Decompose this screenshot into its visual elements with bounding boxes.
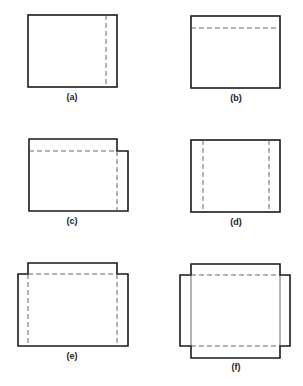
figure-d-outline	[191, 140, 280, 212]
figure-f-outline	[180, 264, 290, 358]
figure-d	[191, 140, 280, 212]
figure-a-outline	[28, 15, 117, 87]
figure-a-label: (a)	[67, 92, 78, 102]
figure-c-label: (c)	[67, 216, 78, 226]
figure-e-label: (e)	[67, 351, 78, 361]
figure-f	[180, 264, 290, 358]
figure-f-label: (f)	[232, 362, 241, 372]
figure-b-label: (b)	[230, 93, 242, 103]
figure-d-label: (d)	[230, 217, 242, 227]
figure-c-outline	[29, 139, 128, 211]
figure-e	[18, 263, 128, 346]
figure-b-outline	[191, 16, 280, 88]
figure-b	[191, 16, 280, 88]
folding-diagrams	[0, 0, 303, 386]
figure-e-outline	[18, 263, 128, 346]
figure-a	[28, 15, 117, 87]
figure-c	[29, 139, 128, 211]
